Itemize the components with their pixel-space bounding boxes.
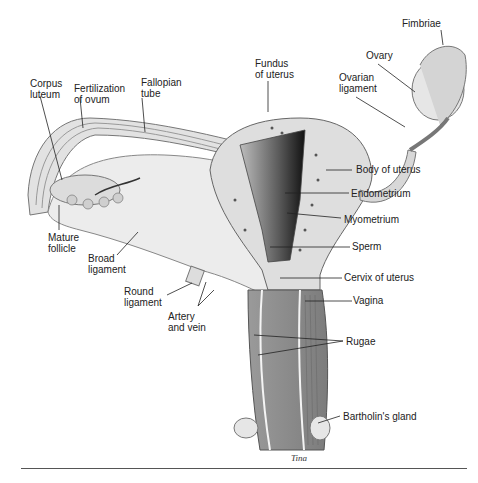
label-fallopian-tube: Fallopian tube [141, 77, 182, 99]
label-mature-follicle: Mature follicle [48, 232, 79, 254]
label-rugae: Rugae [346, 336, 375, 347]
label-sperm: Sperm [352, 241, 381, 252]
label-vagina: Vagina [353, 295, 383, 306]
label-ovarian-ligament: Ovarian ligament [339, 72, 377, 94]
label-round-ligament: Round ligament [124, 286, 162, 308]
label-cervix: Cervix of uterus [344, 272, 414, 283]
label-fundus: Fundus of uterus [255, 58, 294, 80]
right-ovary [360, 46, 466, 202]
label-fertilization: Fertilization of ovum [74, 83, 125, 105]
label-ovary: Ovary [366, 50, 393, 61]
bottom-divider [21, 468, 467, 469]
label-artery-vein: Artery and vein [168, 311, 206, 333]
label-bartholins-gland: Bartholin's gland [343, 411, 417, 422]
vagina [186, 266, 330, 450]
label-fimbriae: Fimbriae [402, 18, 441, 29]
label-broad-ligament: Broad ligament [88, 253, 126, 275]
label-corpus-luteum: Corpus luteum [30, 78, 62, 100]
artist-signature: Tina [291, 453, 308, 463]
label-body-of-uterus: Body of uterus [356, 164, 420, 175]
label-myometrium: Myometrium [344, 214, 399, 225]
label-endometrium: Endometrium [351, 188, 410, 199]
